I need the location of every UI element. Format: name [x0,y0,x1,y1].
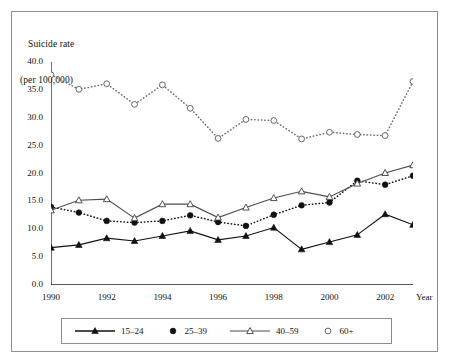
data-point-marker [76,86,82,92]
legend-entry-15-24[interactable]: 15–24 [74,325,144,337]
data-point-marker [243,223,249,229]
figure-container: Suicide rate (per 100,000) 40.035.030.02… [0,0,453,364]
data-point-marker [327,129,333,135]
legend-label: 60+ [340,326,354,336]
data-point-marker [410,221,413,227]
x-tick-label: 2000 [309,292,349,302]
data-point-marker [271,212,277,218]
chart-legend: 15–2425–3940–5960+ [61,318,392,344]
y-tick-label: 15.0 [13,195,43,205]
chart-svg [51,62,413,285]
legend-swatch-filled-triangle-icon [74,325,116,337]
series-40-59 [51,162,413,221]
data-point-marker [270,224,277,230]
x-tick-label: 1994 [142,292,182,302]
data-point-marker [103,235,110,241]
plot-area [51,62,413,285]
data-point-marker [76,210,82,216]
legend-entry-40-59[interactable]: 40–59 [229,325,299,337]
legend-entry-60+[interactable]: 60+ [321,325,354,337]
data-point-marker [325,328,331,334]
legend-entry-25-39[interactable]: 25–39 [166,325,208,337]
x-tick-label: 2002 [365,292,405,302]
data-point-marker [187,227,194,233]
data-point-marker [298,188,305,194]
data-point-marker [170,328,176,334]
legend-label: 25–39 [185,326,208,336]
data-point-marker [271,118,277,124]
x-axis-name: Year [416,292,433,302]
y-tick-label: 35.0 [13,84,43,94]
data-point-marker [159,82,165,88]
data-point-marker [382,133,388,139]
data-point-marker [410,162,413,168]
data-point-marker [382,211,389,217]
data-point-marker [104,218,110,224]
legend-entries: 15–2425–3940–5960+ [62,319,391,343]
y-tick-label: 10.0 [13,223,43,233]
data-point-marker [354,132,360,138]
data-point-marker [410,79,413,85]
data-point-marker [299,136,305,142]
data-point-marker [187,105,193,111]
data-point-marker [243,117,249,123]
legend-swatch-open-triangle-icon [229,325,271,337]
series-line [51,165,413,218]
series-60+ [51,72,413,142]
y-tick-label: 40.0 [13,56,43,66]
x-tick-label: 1996 [198,292,238,302]
x-tick-label: 1992 [87,292,127,302]
series-15-24 [51,211,413,252]
y-axis-title-line-1: Suicide rate [20,38,74,50]
data-point-marker [215,135,221,141]
data-point-marker [131,215,138,221]
data-point-marker [104,81,110,87]
legend-label: 15–24 [121,326,144,336]
data-point-marker [382,182,388,188]
legend-swatch-filled-circle-icon [166,325,180,337]
legend-label: 40–59 [276,326,299,336]
data-point-marker [159,218,165,224]
data-point-marker [299,202,305,208]
data-point-marker [187,212,193,218]
y-tick-label: 20.0 [13,168,43,178]
y-tick-label: 5.0 [13,251,43,261]
y-tick-label: 25.0 [13,140,43,150]
data-point-marker [410,173,413,179]
y-tick-label: 30.0 [13,112,43,122]
legend-swatch-open-circle-icon [321,325,335,337]
data-point-marker [327,200,333,206]
x-tick-label: 1998 [254,292,294,302]
data-point-marker [51,72,54,78]
data-point-marker [132,101,138,107]
y-tick-label: 0.0 [13,279,43,289]
data-point-marker [354,231,361,237]
x-tick-label: 1990 [31,292,71,302]
